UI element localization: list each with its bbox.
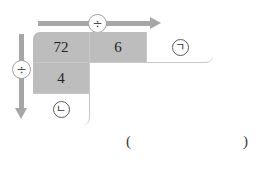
cell-column-answer-blank[interactable]: ㄴ bbox=[33, 94, 90, 125]
diagram-canvas: ÷ ÷ 72 6 ㄱ 4 ㄴ ( ) bbox=[0, 0, 259, 172]
answer-close-paren: ) bbox=[243, 133, 248, 150]
cell-dividend: 72 bbox=[33, 32, 90, 63]
table-row: 4 bbox=[33, 63, 213, 94]
cell-row-answer-blank[interactable]: ㄱ bbox=[147, 32, 213, 63]
answer-field[interactable]: ( ) bbox=[0, 133, 259, 163]
column-division-operator-icon: ÷ bbox=[12, 60, 31, 79]
cell-row-divisor: 6 bbox=[90, 32, 147, 63]
cell-column-divisor: 4 bbox=[33, 63, 90, 94]
answer-open-paren: ( bbox=[126, 133, 131, 150]
table-row: ㄴ bbox=[33, 94, 213, 125]
division-table: 72 6 ㄱ 4 ㄴ bbox=[33, 32, 213, 125]
table-row: 72 6 ㄱ bbox=[33, 32, 213, 63]
column-arrow-head-icon bbox=[15, 108, 27, 119]
circled-nieun-icon: ㄴ bbox=[53, 101, 70, 118]
row-arrow-head-icon bbox=[150, 17, 161, 29]
circled-giyeok-icon: ㄱ bbox=[172, 39, 189, 56]
row-division-operator-icon: ÷ bbox=[88, 14, 107, 33]
